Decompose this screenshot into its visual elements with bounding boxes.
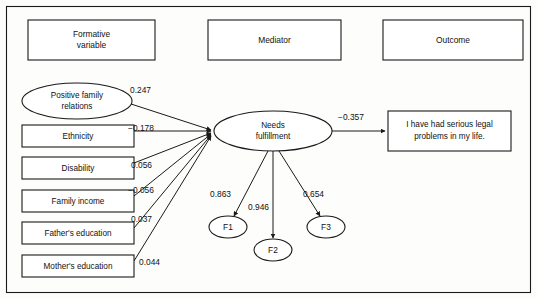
node-label-outcome-line1: I have had serious legal — [406, 120, 493, 129]
coefficient-f3: 0.654 — [303, 189, 324, 199]
node-label-f3: F3 — [321, 222, 331, 232]
coefficient-mothers-education: 0.044 — [139, 257, 160, 267]
node-label-ethnicity: Ethnicity — [63, 132, 95, 141]
node-positive-family-relations — [22, 83, 132, 119]
node-label-mothers-education: Mother's education — [44, 262, 113, 271]
node-label-needs-fulfillment-line2: fulfillment — [256, 132, 291, 141]
node-outcome — [388, 111, 511, 151]
node-needs-fulfillment — [214, 111, 332, 151]
path-disability-to-needs-fulfillment — [134, 133, 211, 163]
coefficient-family-income: −0.056 — [128, 185, 154, 195]
node-label-f1: F1 — [223, 222, 233, 232]
header-label-mediator: Mediator — [258, 35, 291, 45]
node-label-positive-family-relations-line1: Positive family — [51, 91, 104, 100]
path-mothers-education-to-needs-fulfillment — [134, 136, 211, 261]
header-label-outcome: Outcome — [436, 35, 470, 45]
node-label-positive-family-relations-line2: relations — [62, 102, 93, 111]
coefficient-f1: 0.863 — [210, 189, 231, 199]
coefficient-positive-family-relations: 0.247 — [130, 85, 151, 95]
path-diagram-figure: Formative variable Mediator Outcome Posi… — [0, 0, 537, 299]
header-label-formative-variable-line1: Formative — [73, 29, 111, 39]
node-label-outcome-line2: problems in my life. — [414, 132, 485, 141]
coefficient-needs-fulfillment-to-outcome: −0.357 — [338, 112, 364, 122]
coefficient-fathers-education: 0.037 — [131, 214, 152, 224]
node-label-f2: F2 — [268, 245, 278, 255]
node-label-needs-fulfillment-line1: Needs — [261, 121, 285, 130]
coefficient-ethnicity: −0.178 — [128, 123, 154, 133]
coefficient-disability: 0.056 — [131, 160, 152, 170]
path-needs-fulfillment-to-f3 — [279, 151, 320, 216]
node-label-disability: Disability — [62, 164, 96, 173]
node-label-fathers-education: Father's education — [44, 229, 112, 238]
header-label-formative-variable-line2: variable — [77, 40, 107, 50]
node-label-family-income: Family income — [52, 197, 105, 206]
coefficient-f2: 0.946 — [248, 202, 269, 212]
